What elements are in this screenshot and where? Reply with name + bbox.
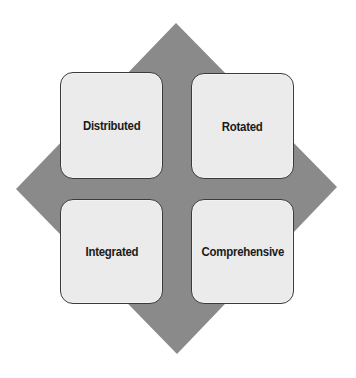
quadrant-box-comprehensive: Comprehensive <box>191 199 294 304</box>
quadrant-label: Rotated <box>222 119 263 134</box>
background-diamond <box>0 0 356 378</box>
quadrant-box-distributed: Distributed <box>60 72 163 179</box>
quadrant-label: Distributed <box>83 118 140 133</box>
quadrant-label: Integrated <box>85 244 138 259</box>
quadrant-box-integrated: Integrated <box>60 199 163 304</box>
quadrant-box-rotated: Rotated <box>191 73 294 179</box>
diagram-canvas: Distributed Rotated Integrated Comprehen… <box>0 0 356 378</box>
quadrant-label: Comprehensive <box>201 244 283 259</box>
